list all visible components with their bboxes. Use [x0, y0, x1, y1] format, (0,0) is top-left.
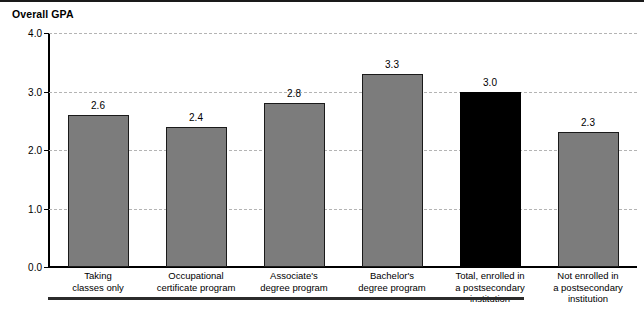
- y-tick-label: 3.0: [0, 86, 42, 97]
- category-label-line: Bachelor's: [340, 270, 444, 282]
- bar: [558, 132, 619, 267]
- bar-value-label: 2.4: [166, 112, 226, 123]
- category-label-line: certificate program: [144, 282, 248, 294]
- y-tick-mark: [44, 150, 49, 151]
- category-label-line: Taking: [46, 270, 150, 282]
- gridline: [49, 209, 637, 210]
- x-axis-line: [48, 266, 637, 268]
- y-tick-label: 1.0: [0, 203, 42, 214]
- bar: [166, 127, 227, 267]
- gridline: [49, 150, 637, 151]
- top-divider-rule: [0, 0, 644, 2]
- bar: [68, 115, 129, 267]
- gridline: [49, 92, 637, 93]
- bottom-divider-rule: [48, 297, 524, 300]
- x-axis-category-label: Occupationalcertificate program: [144, 270, 248, 293]
- gridline: [49, 33, 637, 34]
- bar-value-label: 2.6: [68, 100, 128, 111]
- bar-value-label: 3.0: [460, 77, 520, 88]
- x-axis-category-label: Associate'sdegree program: [242, 270, 346, 293]
- category-label-line: institution: [536, 293, 640, 305]
- chart-title: Overall GPA: [12, 8, 74, 20]
- category-label-line: Not enrolled in: [536, 270, 640, 282]
- category-label-line: Occupational: [144, 270, 248, 282]
- category-label-line: classes only: [46, 282, 150, 294]
- y-tick-label: 4.0: [0, 28, 42, 39]
- y-tick-mark: [44, 92, 49, 93]
- y-tick-label: 0.0: [0, 262, 42, 273]
- bar: [264, 103, 325, 267]
- x-axis-category-label: Not enrolled ina postsecondaryinstitutio…: [536, 270, 640, 305]
- y-tick-mark: [44, 209, 49, 210]
- y-tick-label: 2.0: [0, 145, 42, 156]
- category-label-line: degree program: [242, 282, 346, 294]
- bar-value-label: 3.3: [362, 59, 422, 70]
- bar-value-label: 2.8: [264, 88, 324, 99]
- category-label-line: degree program: [340, 282, 444, 294]
- x-axis-category-label: Takingclasses only: [46, 270, 150, 293]
- category-label-line: a postsecondary: [438, 282, 542, 294]
- y-tick-mark: [44, 267, 49, 268]
- y-tick-mark: [44, 33, 49, 34]
- category-label-line: Associate's: [242, 270, 346, 282]
- category-label-line: Total, enrolled in: [438, 270, 542, 282]
- bar: [362, 74, 423, 267]
- x-axis-category-label: Bachelor'sdegree program: [340, 270, 444, 293]
- chart-figure: Overall GPA 0.01.02.03.04.0 2.62.42.83.3…: [0, 0, 644, 311]
- bar: [460, 92, 521, 268]
- bar-value-label: 2.3: [558, 117, 618, 128]
- category-label-line: a postsecondary: [536, 282, 640, 294]
